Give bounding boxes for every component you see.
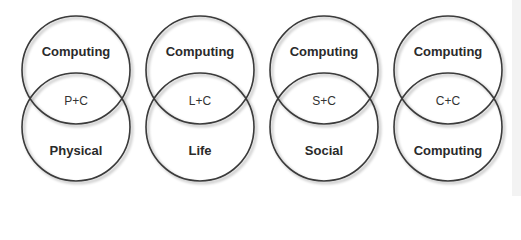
- venn-2-top-label: Computing: [145, 44, 255, 59]
- venn-1-top-label: Computing: [21, 44, 131, 59]
- venn-2-intersection-label: L+C: [145, 94, 255, 108]
- venn-2-bottom-label: Life: [145, 143, 255, 158]
- venn-3-bottom-circle: [270, 73, 378, 181]
- venn-2-bottom-circle: [146, 73, 254, 181]
- venn-4-intersection-label: C+C: [393, 94, 503, 108]
- venn-1-intersection-label: P+C: [21, 94, 131, 108]
- venn-4-bottom-label: Computing: [393, 143, 503, 158]
- venn-3-intersection-label: S+C: [269, 94, 379, 108]
- venn-4-top-label: Computing: [393, 44, 503, 59]
- venn-3-bottom-label: Social: [269, 143, 379, 158]
- venn-1-bottom-circle: [22, 73, 130, 181]
- venn-1-bottom-label: Physical: [21, 143, 131, 158]
- venn-4-bottom-circle: [394, 73, 502, 181]
- venn-3-top-label: Computing: [269, 44, 379, 59]
